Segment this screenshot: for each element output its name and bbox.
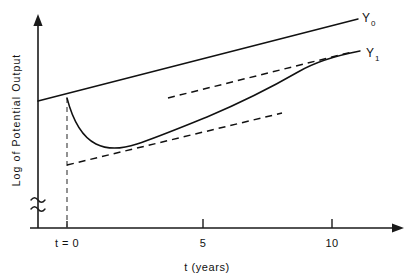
x-axis-ticks <box>67 219 332 228</box>
series-line-upper-trend-dashed <box>168 52 352 98</box>
x-axis-title: t (years) <box>184 261 230 273</box>
series-label-y1-base: Y <box>366 46 374 60</box>
chart-figure: Y 0 Y 1 t = 0 5 10 t (years) Log of Pote… <box>0 0 415 280</box>
x-tick-label-10: 10 <box>325 237 338 249</box>
series-label-y1-subscript: 1 <box>375 54 380 63</box>
y-axis-title: Log of Potential Output <box>10 54 22 187</box>
series-label-y0-base: Y <box>362 11 370 25</box>
series-label-y1: Y 1 <box>366 46 380 63</box>
series-line-lower-trend-dashed <box>67 113 282 165</box>
series-label-y0: Y 0 <box>362 11 376 28</box>
series-line-y0 <box>38 19 358 101</box>
axes-group <box>30 14 404 233</box>
x-tick-label-5: 5 <box>200 237 207 249</box>
series-curve-y1 <box>67 51 360 148</box>
series-label-y0-subscript: 0 <box>371 19 376 28</box>
potential-output-chart: Y 0 Y 1 t = 0 5 10 t (years) Log of Pote… <box>0 0 415 280</box>
x-axis-arrow-icon <box>392 223 404 232</box>
y-axis-arrow-icon <box>33 14 42 26</box>
x-tick-label-t0: t = 0 <box>55 237 79 249</box>
